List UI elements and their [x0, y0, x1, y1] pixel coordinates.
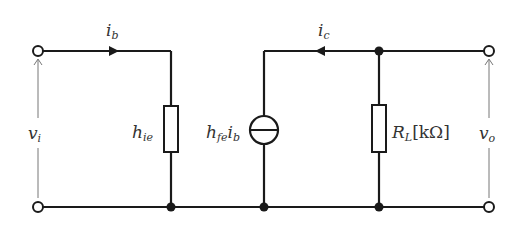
load-resistor: [372, 105, 386, 152]
circuit-diagram: ib ic vi vo hie hfeib RL[kΩ]: [0, 0, 528, 230]
ib-label: ib: [106, 22, 118, 41]
vi-label: vi: [28, 125, 41, 144]
junction-node: [167, 203, 176, 212]
junction-node: [260, 203, 269, 212]
output-terminal-bottom: [484, 202, 494, 212]
junction-node: [375, 203, 384, 212]
h-ie-label: hie: [132, 124, 153, 143]
junction-node: [375, 47, 384, 56]
h-ie-resistor: [164, 106, 178, 152]
current-source-icon: [250, 116, 278, 144]
input-terminal-top: [33, 46, 43, 56]
output-terminal-top: [484, 46, 494, 56]
ic-label: ic: [318, 22, 330, 41]
load-resistor-label: RL[kΩ]: [392, 124, 450, 143]
ib-arrow-icon: [109, 46, 119, 56]
input-terminal-bottom: [33, 202, 43, 212]
circuit-svg: [0, 0, 528, 230]
current-source-label: hfeib: [206, 124, 240, 143]
ic-arrow-icon: [315, 46, 325, 56]
vo-label: vo: [479, 125, 495, 144]
